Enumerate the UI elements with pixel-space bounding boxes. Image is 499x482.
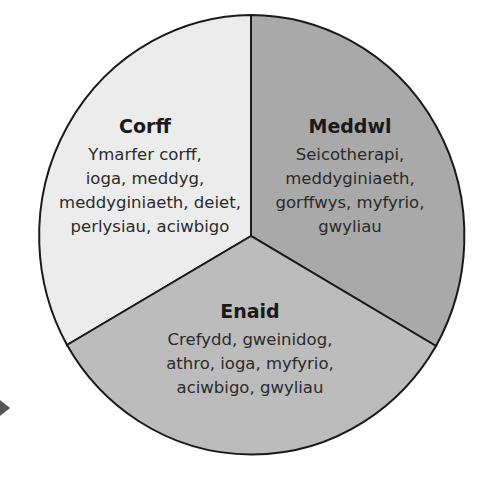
segment-line: ioga, meddyg, bbox=[86, 169, 204, 188]
segment-line: athro, ioga, myfyrio, bbox=[166, 354, 334, 373]
segment-line: Crefydd, gweinidog, bbox=[168, 330, 333, 349]
segment-line: Ymarfer corff, bbox=[87, 145, 202, 164]
segment-line: aciwbigo, gwyliau bbox=[177, 378, 324, 397]
segment-title-corff: Corff bbox=[119, 115, 171, 137]
segment-line: perlysiau, aciwbigo bbox=[71, 217, 230, 236]
segment-line: Seicotherapi, bbox=[296, 145, 405, 164]
segment-line: meddyginiaeth, bbox=[285, 169, 414, 188]
pie-diagram: Corff Ymarfer corff, ioga, meddyg, meddy… bbox=[0, 0, 499, 482]
segment-line: meddyginiaeth, deiet, bbox=[59, 193, 241, 212]
segment-line: gorffwys, myfyrio, bbox=[276, 193, 425, 212]
arrow-pointer-icon bbox=[0, 400, 10, 416]
segment-title-meddwl: Meddwl bbox=[308, 115, 391, 137]
segment-title-enaid: Enaid bbox=[220, 300, 279, 322]
segment-line: gwyliau bbox=[318, 217, 381, 236]
